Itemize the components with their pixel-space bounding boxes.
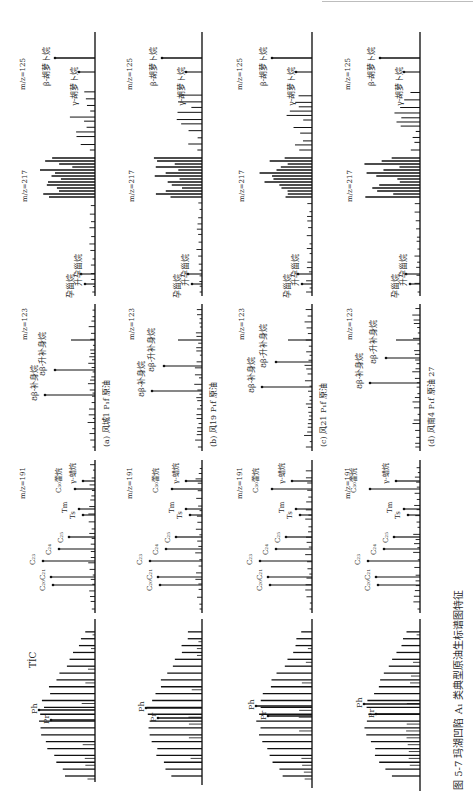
peak-marker [161, 57, 164, 60]
peak-marker [383, 548, 386, 551]
peak-marker [52, 584, 55, 587]
c25-label: C₂₅ [274, 532, 282, 543]
peak-marker [299, 514, 302, 517]
mz191-trace-label: m/z=191 [19, 467, 27, 499]
peak-marker [301, 283, 304, 286]
mz217-trace-label: m/z=217 [346, 170, 354, 202]
ts-label: Ts [176, 511, 184, 519]
gamma-carotane-label: γ-胡萝卜烷 [176, 67, 186, 106]
c24-label: C₂₄ [370, 544, 378, 555]
ts-label: Ts [69, 511, 77, 519]
peak-marker [407, 514, 410, 517]
c20-c21-label: C₂₀C₂₁ [364, 569, 372, 591]
peak-marker [271, 57, 274, 60]
drimane-label: 8β-补身烷 [246, 357, 256, 393]
c20-c21-label: C₂₀C₂₁ [146, 569, 154, 591]
c25-label: C₂₅ [382, 532, 390, 543]
peak-marker [159, 584, 162, 587]
ph-label: Ph [137, 701, 146, 712]
peak-marker [267, 576, 270, 579]
drimane-label: 8β-补身烷 [136, 361, 146, 397]
c24-label: C₂₄ [152, 544, 160, 555]
mz217-trace-label: m/z=217 [238, 170, 246, 202]
peak-marker [185, 508, 188, 511]
peak-marker [285, 536, 288, 539]
peak-marker [68, 536, 71, 539]
mz123-trace-label: m/z=123 [21, 308, 29, 340]
sample-label-c: (c) 风21 P₁f 原油 [318, 383, 328, 447]
mz123-trace-label: m/z=123 [238, 308, 246, 340]
tic-trace-label: TİC [27, 651, 38, 668]
peak-marker [295, 508, 298, 511]
peak-marker [42, 560, 45, 563]
c30-hopane-label: C₃₀藿烷 [151, 468, 160, 493]
peak-marker [163, 365, 166, 368]
mz217-trace-label: m/z=217 [21, 170, 29, 202]
mz191-trace-label: m/z=191 [236, 467, 244, 499]
peak-marker [84, 283, 87, 286]
peak-marker [78, 508, 81, 511]
c30-hopane-label: C₃₀藿烷 [251, 468, 260, 493]
peak-marker [271, 488, 274, 491]
peak-marker [269, 584, 272, 587]
panels-group [38, 32, 420, 791]
peak-marker [385, 357, 388, 360]
peak-marker [82, 514, 85, 517]
peak-marker [44, 394, 47, 397]
homodrimane-label: 8β-升补身烷 [37, 332, 47, 376]
peak-marker [275, 548, 278, 551]
homopregnane-label: 升孕甾烷 [180, 254, 190, 286]
c23-label: C₂₃ [136, 554, 144, 565]
c20-c21-label: C₂₀C₂₁ [39, 569, 47, 591]
c23-label: C₂₃ [246, 554, 254, 565]
mz125-trace-label: m/z=125 [126, 58, 134, 90]
ph-label: Ph [30, 703, 39, 714]
peak-marker [165, 548, 168, 551]
beta-carotane-label: β-胡萝卜烷 [148, 47, 158, 86]
sample-label-d: (d) 风南4 P₁f 原油 27 [426, 367, 436, 447]
mz191-trace-label: m/z=191 [126, 467, 134, 499]
mz125-trace-label: m/z=125 [344, 58, 352, 90]
ts-label: Ts [286, 511, 294, 519]
peak-marker [54, 369, 57, 372]
c24-label: C₂₄ [262, 544, 270, 555]
c25-label: C₂₅ [164, 532, 172, 543]
c23-label: C₂₃ [354, 554, 362, 565]
peak-marker [291, 480, 294, 483]
peak-marker [58, 548, 61, 551]
mz123-trace-label: m/z=123 [346, 308, 354, 340]
peak-marker [149, 560, 152, 563]
pr-label: Pr [367, 709, 376, 718]
peak-marker [393, 536, 396, 539]
ph-label: Ph [247, 699, 256, 710]
mz125-trace-label: m/z=125 [236, 58, 244, 90]
gamma-carotane-label: γ-胡萝卜烷 [69, 67, 79, 106]
peak-marker [377, 584, 380, 587]
gammacerane-label: γ-蜡烷 [381, 463, 390, 484]
homopregnane-label: 升孕甾烷 [398, 254, 408, 286]
peak-marker [171, 488, 174, 491]
mz217-trace-label: m/z=217 [128, 170, 136, 202]
peak-marker [185, 480, 188, 483]
figure-caption: 图 5-7 玛湖凹陷 A₁ 类典型原油生标谱图特征 [452, 590, 464, 790]
peak-marker [50, 576, 53, 579]
ts-label: Ts [394, 511, 402, 519]
gammacerane-label: γ-蜡烷 [277, 463, 286, 484]
peak-marker [379, 57, 382, 60]
c23-label: C₂₃ [29, 554, 37, 565]
tm-label: Tm [168, 501, 176, 513]
gamma-carotane-label: γ-胡萝卜烷 [394, 67, 404, 106]
sample-label-b: (b) 风19 P₁f 原油 [208, 382, 218, 447]
tm-label: Tm [278, 501, 286, 513]
beta-carotane-label: β-胡萝卜烷 [41, 47, 51, 86]
chromatogram-figure: PrPhTİCC₂₀C₂₁C₂₃C₂₄C₂₅TsTmC₃₀藿烷γ-蜡烷m/z=1… [0, 0, 473, 797]
peak-marker [369, 488, 372, 491]
peak-marker [367, 560, 370, 563]
peak-marker [82, 480, 85, 483]
tm-label: Tm [61, 501, 69, 513]
peak-marker [403, 508, 406, 511]
peak-marker [74, 488, 77, 491]
homodrimane-label: 8β-升补身烷 [258, 324, 268, 368]
peak-marker [275, 361, 278, 364]
pr-label: Pr [259, 711, 268, 720]
